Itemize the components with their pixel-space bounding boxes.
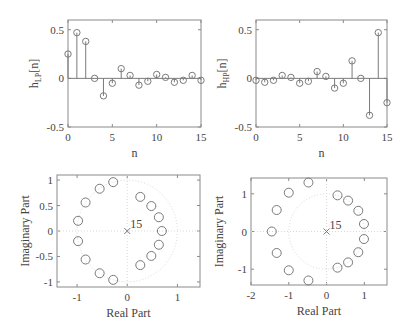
plot-frame (256, 20, 387, 127)
y-tick-label: 0.5 (39, 200, 53, 212)
y-axis-label: Imaginary Part (18, 195, 32, 267)
y-tick-label: -0.5 (235, 121, 253, 133)
x-tick-label: 5 (297, 131, 303, 143)
x-tick-label: 10 (338, 131, 350, 143)
x-tick-label: 1 (175, 291, 181, 303)
zero-marker (81, 198, 90, 207)
x-tick-label: 0 (65, 131, 71, 143)
zero-marker (333, 191, 342, 200)
zero-marker (272, 248, 281, 257)
y-label-subscript: HP (222, 72, 231, 83)
y-label-tail: [n] (27, 59, 41, 73)
lowpass-pole-zero-plot: -10110.50-0.5-1Real PartImaginary Part15 (18, 174, 200, 320)
zero-marker (267, 227, 276, 236)
zero-marker (359, 235, 368, 244)
zero-marker (136, 261, 145, 270)
x-axis-label: n (319, 146, 325, 160)
zero-marker (154, 240, 163, 249)
y-axis-label: hLP[n] (27, 59, 43, 88)
lowpass-impulse-response-plot: 0510150.50-0.5nhLP[n] (27, 20, 207, 160)
figure: 0510150.50-0.5nhLP[n] 0510150.50-0.5nhHP… (0, 0, 411, 336)
zero-marker (344, 196, 353, 205)
y-tick-label: -0.5 (47, 121, 65, 133)
x-tick-label: -2 (246, 289, 255, 301)
x-tick-label: 15 (382, 131, 394, 143)
x-axis-label: n (132, 146, 138, 160)
y-axis-label: hHP[n] (215, 58, 231, 88)
y-tick-label: 0 (48, 225, 54, 237)
zero-marker (136, 192, 145, 201)
x-tick-label: 0 (324, 289, 330, 301)
zero-marker (272, 206, 281, 215)
y-tick-label: -0.5 (36, 250, 54, 262)
y-tick-label: 0 (59, 72, 65, 84)
zero-marker (81, 255, 90, 264)
plot-frame (68, 20, 201, 127)
y-label-tail: [n] (215, 58, 229, 72)
zero-marker (147, 251, 156, 260)
zero-marker (147, 202, 156, 211)
y-tick-label: 1 (242, 188, 248, 200)
zero-marker (74, 237, 83, 246)
zero-marker (304, 276, 313, 285)
x-tick-label: 0 (253, 131, 259, 143)
y-tick-label: 1 (48, 174, 54, 186)
x-tick-label: -1 (72, 291, 81, 303)
zero-marker (304, 178, 313, 187)
zero-marker (284, 266, 293, 275)
zero-marker (109, 178, 118, 187)
y-axis-label: Imaginary Part (212, 195, 226, 267)
x-tick-label: 1 (362, 289, 368, 301)
zero-marker (95, 184, 104, 193)
y-tick-label: 0.5 (238, 24, 252, 36)
x-tick-label: 15 (196, 131, 208, 143)
x-tick-label: 10 (151, 131, 163, 143)
y-tick-label: 0 (242, 226, 248, 238)
zero-marker (154, 213, 163, 222)
zero-marker (354, 206, 363, 215)
y-tick-label: 0.5 (50, 24, 64, 36)
highpass-pole-zero-plot: -2-10110-1Real PartImaginary Part15 (212, 178, 387, 318)
x-axis-label: Real Part (297, 304, 342, 318)
x-tick-label: 0 (124, 291, 130, 303)
highpass-impulse-response-plot: 0510150.50-0.5nhHP[n] (215, 20, 393, 160)
pole-multiplicity-label: 15 (130, 217, 142, 231)
zero-marker (359, 219, 368, 228)
zero-marker (284, 188, 293, 197)
pole-multiplicity-label: 15 (330, 218, 342, 232)
x-tick-label: -1 (284, 289, 293, 301)
y-tick-label: -1 (44, 276, 53, 288)
plot-frame (251, 178, 387, 285)
x-tick-label: 5 (110, 131, 116, 143)
x-axis-label: Real Part (106, 306, 151, 320)
y-tick-label: -1 (238, 263, 247, 275)
y-tick-label: 0 (247, 72, 253, 84)
